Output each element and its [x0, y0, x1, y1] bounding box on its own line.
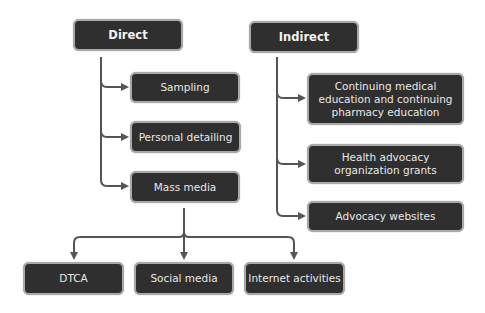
social-media-node: Social media: [134, 262, 234, 295]
dtca-node: DTCA: [23, 262, 124, 295]
personal-detailing-node: Personal detailing: [130, 121, 241, 153]
sampling-node: Sampling: [130, 72, 240, 103]
indirect-node: Indirect: [249, 21, 359, 53]
health-advocacy-grants-node: Health advocacy organization grants: [307, 144, 464, 184]
direct-node: Direct: [73, 19, 183, 51]
internet-activities-node: Internet activities: [244, 262, 345, 295]
mass-media-node: Mass media: [130, 171, 240, 203]
advocacy-websites-node: Advocacy websites: [307, 201, 464, 232]
continuing-education-node: Continuing medical education and continu…: [307, 73, 464, 125]
